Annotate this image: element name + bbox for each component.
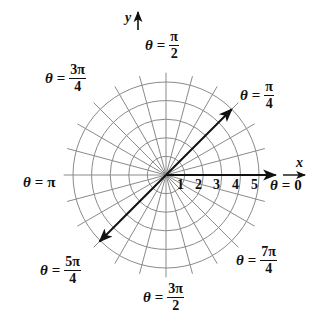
theta-symbol: θ [45, 70, 53, 87]
y-axis-label: y [125, 10, 131, 26]
pi-over-4-arrow [166, 109, 232, 175]
numerator: π [264, 80, 274, 96]
denominator: 4 [265, 261, 272, 276]
grid-radial-105 [140, 76, 166, 175]
denominator: 4 [74, 79, 81, 94]
angle-label-pi: θ = π [23, 174, 56, 191]
equals-sign: = [157, 37, 166, 54]
grid-radial-135 [94, 103, 166, 175]
denominator: 2 [172, 298, 179, 313]
equals-sign: = [57, 70, 66, 87]
theta-symbol: θ [236, 252, 244, 269]
equals-sign: = [282, 177, 291, 194]
equals-sign: = [155, 289, 164, 306]
numerator: π [169, 30, 179, 46]
angle-label-5pi-over-4: θ = 5π 4 [40, 255, 81, 286]
denominator: 4 [69, 271, 76, 286]
x-axis-label: x [296, 155, 303, 171]
tick-label-1: 1 [177, 177, 184, 193]
theta-symbol: θ [143, 289, 151, 306]
angle-label-pi-over-4: θ = π 4 [240, 80, 274, 111]
fraction: π 4 [264, 80, 274, 111]
numerator: 3π [69, 63, 86, 79]
fraction: π 2 [169, 30, 179, 61]
angle-label-0: θ = 0 [270, 177, 302, 194]
fraction: 3π 2 [167, 282, 184, 313]
angle-value: 0 [294, 177, 302, 194]
tick-label-2: 2 [195, 177, 202, 193]
theta-symbol: θ [240, 87, 248, 104]
theta-symbol: θ [40, 262, 48, 279]
equals-sign: = [252, 87, 261, 104]
numerator: 7π [260, 245, 277, 261]
angle-label-3pi-over-4: θ = 3π 4 [45, 63, 86, 94]
grid-radial-255 [140, 175, 166, 274]
grid-radial-300 [166, 175, 217, 264]
angle-label-pi-over-2: θ = π 2 [145, 30, 179, 61]
fraction: 7π 4 [260, 245, 277, 276]
grid-radial-195 [67, 175, 166, 201]
fraction: 5π 4 [64, 255, 81, 286]
equals-sign: = [52, 262, 61, 279]
grid-radial-150 [77, 124, 166, 175]
grid-radial-15 [166, 149, 265, 175]
five-pi-over-4-arrow [100, 175, 166, 241]
denominator: 2 [171, 46, 178, 61]
grid-radial-75 [166, 76, 192, 175]
angle-label-3pi-over-2: θ = 3π 2 [143, 282, 184, 313]
fraction: 3π 4 [69, 63, 86, 94]
angle-value: π [47, 174, 55, 191]
tick-label-3: 3 [213, 177, 220, 193]
tick-label-5: 5 [251, 177, 258, 193]
grid-radial-120 [115, 86, 166, 175]
grid-radial-165 [67, 149, 166, 175]
equals-sign: = [248, 252, 257, 269]
angle-label-7pi-over-4: θ = 7π 4 [236, 245, 277, 276]
equals-sign: = [35, 174, 44, 191]
denominator: 4 [266, 96, 273, 111]
theta-symbol: θ [23, 174, 31, 191]
theta-symbol: θ [270, 177, 278, 194]
numerator: 3π [167, 282, 184, 298]
numerator: 5π [64, 255, 81, 271]
theta-symbol: θ [145, 37, 153, 54]
tick-label-4: 4 [232, 177, 239, 193]
